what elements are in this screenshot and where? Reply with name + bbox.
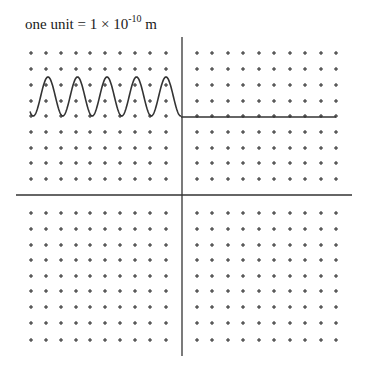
grid-point [118,338,122,342]
grid-point [272,130,276,134]
grid-point [88,146,92,150]
grid-point [241,146,245,150]
grid-point [288,83,292,87]
grid-point [118,146,122,150]
grid-point [59,51,63,55]
grid-point [272,161,276,165]
sine-wave [30,77,181,116]
grid-point [288,67,292,71]
grid-point [303,146,307,150]
grid-point [29,51,33,55]
grid-point [29,161,33,165]
grid-point [88,305,92,309]
grid-point [44,211,48,215]
grid-point [319,289,323,293]
grid-point [210,161,214,165]
grid-point [319,51,323,55]
grid-point [288,51,292,55]
grid-point [334,258,338,262]
grid-point [210,227,214,231]
grid-point [103,114,107,118]
grid-point [133,83,137,87]
grid-point [118,227,122,231]
grid-point [241,289,245,293]
grid-point [74,305,78,309]
grid-point [241,83,245,87]
grid-point [133,146,137,150]
grid-point [303,227,307,231]
grid-point [133,243,137,247]
grid-point [74,99,78,103]
grid-point [272,305,276,309]
grid-point [118,289,122,293]
grid-point [59,177,63,181]
grid-point [288,211,292,215]
grid-point [195,211,199,215]
grid-point [103,227,107,231]
grid-point [210,321,214,325]
grid-point [148,243,152,247]
grid-point [319,321,323,325]
dot-grid [29,51,338,342]
grid-point [288,177,292,181]
grid-point [59,99,63,103]
grid-point [288,227,292,231]
grid-point [195,67,199,71]
grid-point [44,258,48,262]
grid-point [210,51,214,55]
grid-point [272,67,276,71]
grid-point [319,67,323,71]
grid-point [226,321,230,325]
grid-point [133,289,137,293]
grid-point [148,83,152,87]
grid-point [272,227,276,231]
grid-point [148,305,152,309]
grid-point [103,274,107,278]
grid-point [88,274,92,278]
grid-point [133,161,137,165]
grid-point [164,161,168,165]
grid-point [303,338,307,342]
grid-point [29,258,33,262]
grid-point [195,227,199,231]
grid-point [103,51,107,55]
grid-point [74,67,78,71]
grid-point [288,146,292,150]
grid-point [133,227,137,231]
grid-point [133,114,137,118]
grid-point [257,130,261,134]
grid-point [118,321,122,325]
grid-point [257,305,261,309]
grid-point [88,338,92,342]
grid-point [303,243,307,247]
grid-point [319,227,323,231]
grid-point [334,83,338,87]
grid-point [133,67,137,71]
grid-point [195,99,199,103]
grid-point [195,274,199,278]
grid-point [44,177,48,181]
grid-point [59,289,63,293]
grid-point [103,146,107,150]
grid-point [164,211,168,215]
grid-point [195,146,199,150]
grid-point [241,177,245,181]
grid-point [288,243,292,247]
grid-point [241,67,245,71]
grid-point [74,274,78,278]
grid-point [319,99,323,103]
grid-point [118,305,122,309]
grid-point [210,99,214,103]
grid-point [241,211,245,215]
grid-point [74,338,78,342]
grid-point [88,321,92,325]
grid-point [226,274,230,278]
grid-point [226,67,230,71]
grid-point [44,130,48,134]
grid-point [319,83,323,87]
grid-point [319,338,323,342]
grid-point [272,243,276,247]
grid-point [334,321,338,325]
grid-point [29,177,33,181]
grid-point [164,274,168,278]
